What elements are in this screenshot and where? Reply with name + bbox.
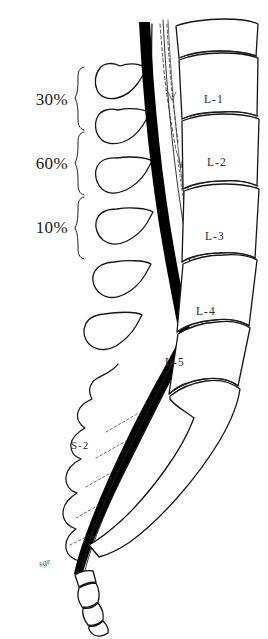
spinous-process-l3 — [96, 208, 153, 244]
vertebral-body-t12 — [176, 19, 258, 58]
vertebra-label-l2: L-2 — [207, 157, 227, 169]
spine-diagram-figure: 30% 60% 10% L-1 L-2 L-3 L-4 L-5 S-2 sgr — [0, 0, 268, 639]
vertebral-body-l4 — [177, 255, 257, 332]
vertebra-label-l1: L-1 — [204, 94, 224, 106]
conus-medullaris-outline-2 — [167, 24, 178, 142]
spinous-process-l4 — [93, 261, 151, 298]
brace-30 — [75, 67, 84, 130]
coccyx-group — [75, 571, 108, 636]
sacrum-body — [89, 380, 240, 557]
spinous-process-t12 — [95, 64, 147, 99]
spinous-process-l2 — [96, 157, 152, 193]
percent-label-60: 60% — [22, 155, 68, 172]
spinous-process-l1 — [96, 109, 150, 144]
vertebra-label-l4: L-4 — [196, 306, 216, 318]
percent-label-10: 10% — [22, 219, 68, 236]
brace-60 — [75, 132, 84, 195]
vertebra-label-l3: L-3 — [205, 231, 225, 243]
vertebral-bodies-group — [169, 19, 259, 394]
coccyx-segment-2 — [78, 583, 99, 607]
vertebra-label-l5: L-5 — [165, 357, 185, 369]
percent-label-30: 30% — [22, 91, 68, 108]
brace-10 — [75, 197, 84, 259]
sacral-label-s2: S-2 — [71, 440, 89, 451]
vertebral-body-l2 — [182, 114, 259, 189]
spinous-process-l5 — [84, 312, 142, 349]
vertebral-body-l1 — [179, 53, 258, 119]
vertebral-body-l3 — [182, 184, 259, 262]
percent-brace-group — [75, 67, 84, 259]
